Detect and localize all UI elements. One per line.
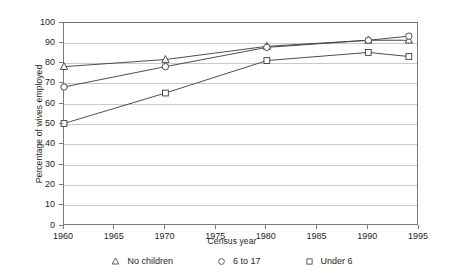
circle-marker — [264, 44, 270, 50]
x-tick-mark — [113, 225, 114, 229]
x-tick-mark — [265, 225, 266, 229]
legend-item-6-to-17[interactable]: 6 to 17 — [217, 256, 261, 267]
series-layer — [64, 23, 419, 226]
y-tick-mark — [59, 22, 63, 23]
y-tick-mark — [59, 123, 63, 124]
y-tick-mark — [59, 103, 63, 104]
legend-item-under-6[interactable]: Under 6 — [305, 256, 353, 267]
square-marker — [163, 90, 169, 96]
y-tick-label: 40 — [11, 138, 55, 148]
square-marker — [406, 54, 412, 60]
y-tick-mark — [59, 42, 63, 43]
x-axis-title: Census year — [0, 236, 464, 246]
y-tick-mark — [59, 62, 63, 63]
x-tick-mark — [63, 225, 64, 229]
plot-area — [63, 22, 418, 225]
square-marker — [305, 257, 314, 266]
legend-label: 6 to 17 — [233, 256, 261, 267]
y-tick-label: 70 — [11, 77, 55, 87]
chart-legend: No children6 to 17Under 6 — [0, 256, 464, 267]
y-tick-mark — [59, 143, 63, 144]
circle-marker — [162, 63, 168, 69]
square-marker — [306, 259, 311, 264]
triangle-marker — [113, 258, 119, 264]
triangle-marker — [111, 257, 120, 266]
y-tick-mark — [59, 82, 63, 83]
y-tick-label: 90 — [11, 37, 55, 47]
y-tick-label: 100 — [11, 17, 55, 27]
circle-marker — [365, 37, 371, 43]
y-tick-mark — [59, 204, 63, 205]
square-marker — [365, 50, 371, 56]
y-tick-mark — [59, 164, 63, 165]
series-under-6 — [61, 50, 412, 127]
series-line — [64, 36, 409, 87]
legend-label: Under 6 — [321, 256, 353, 267]
legend-item-no-children[interactable]: No children — [111, 256, 173, 267]
y-tick-mark — [59, 184, 63, 185]
x-tick-mark — [215, 225, 216, 229]
y-tick-label: 50 — [11, 118, 55, 128]
y-tick-label: 10 — [11, 199, 55, 209]
x-tick-mark — [316, 225, 317, 229]
y-tick-label: 20 — [11, 179, 55, 189]
circle-marker — [61, 84, 67, 90]
y-tick-label: 60 — [11, 98, 55, 108]
circle-marker — [406, 33, 412, 39]
circle-marker — [217, 257, 226, 266]
x-tick-mark — [164, 225, 165, 229]
series-6-to-17 — [61, 33, 412, 90]
y-tick-label: 30 — [11, 159, 55, 169]
x-tick-mark — [418, 225, 419, 229]
line-chart: Percentage of wives employed 01020304050… — [0, 0, 464, 278]
y-tick-label: 80 — [11, 57, 55, 67]
circle-marker — [219, 259, 225, 265]
x-tick-mark — [367, 225, 368, 229]
legend-label: No children — [127, 256, 173, 267]
square-marker — [264, 58, 270, 64]
y-tick-label: 0 — [11, 220, 55, 230]
